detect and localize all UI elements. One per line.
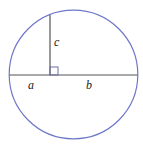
- label-a: a: [28, 78, 34, 92]
- label-c: c: [54, 35, 60, 49]
- label-b: b: [86, 78, 92, 92]
- circle-diagram: c a b: [0, 0, 143, 145]
- right-angle-marker: [50, 67, 58, 75]
